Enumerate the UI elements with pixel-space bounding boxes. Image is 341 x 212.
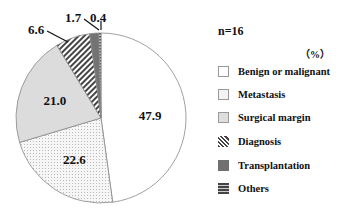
slice-value-label: 21.0 [44,93,67,108]
leader-line [47,31,68,42]
slice-value-label: 6.6 [28,22,45,37]
slice-value-label: 1.7 [65,10,82,25]
lined-swatch-icon [218,183,229,194]
legend-item-transplantation: Transplantation [218,158,310,172]
slice-value-label: 0.4 [90,10,107,25]
white-swatch-icon [218,66,229,77]
slice-value-label: 22.6 [63,152,86,167]
hatched-swatch-icon [218,136,229,147]
gray-swatch-icon [218,112,229,123]
dark-swatch-icon [218,160,229,171]
legend-item-surgical-margin: Surgical margin [218,110,311,124]
legend-item-benign-or-malignant: Benign or malignant [218,64,330,78]
legend-item-diagnosis: Diagnosis [218,134,281,148]
legend-item-metastasis: Metastasis [218,87,285,101]
slice-value-label: 47.9 [139,108,162,123]
dotted-swatch-icon [218,89,229,100]
sample-size-label: n=16 [218,24,244,39]
legend-item-others: Others [218,181,269,195]
unit-label: （%） [300,46,330,61]
pie-chart: 47.922.621.06.61.70.4 [0,0,341,212]
